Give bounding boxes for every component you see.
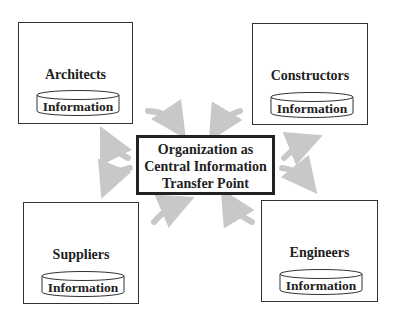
center-line-3: Transfer Point xyxy=(139,175,272,192)
node-engineers: Engineers Information xyxy=(261,200,378,302)
node-label: Engineers xyxy=(262,245,377,261)
information-store: Information xyxy=(41,271,125,297)
store-label: Information xyxy=(36,99,120,115)
center-line-2: Central Information xyxy=(139,158,272,175)
store-label: Information xyxy=(41,280,125,296)
node-suppliers: Suppliers Information xyxy=(23,202,139,304)
arrow-constructors-to-center xyxy=(218,111,240,126)
arrow-engineers-to-center xyxy=(230,204,252,222)
arrow-center-to-engineers xyxy=(282,168,306,180)
arrow-center-to-architects xyxy=(108,142,128,158)
arrow-suppliers-to-center xyxy=(154,204,178,222)
center-line-1: Organization as xyxy=(139,141,272,158)
store-label: Information xyxy=(270,101,354,117)
node-constructors: Constructors Information xyxy=(252,23,368,125)
information-store: Information xyxy=(270,92,354,118)
store-label: Information xyxy=(279,278,363,294)
information-store: Information xyxy=(279,269,363,295)
arrow-architects-to-center xyxy=(148,111,176,124)
central-organization-box: Organization as Central Information Tran… xyxy=(136,135,275,195)
arrow-center-to-suppliers xyxy=(108,168,130,182)
node-label: Architects xyxy=(19,67,132,83)
node-label: Constructors xyxy=(253,68,367,84)
arrow-center-to-constructors xyxy=(284,142,306,158)
node-label: Suppliers xyxy=(24,247,138,263)
information-store: Information xyxy=(36,90,120,116)
node-architects: Architects Information xyxy=(18,22,133,124)
